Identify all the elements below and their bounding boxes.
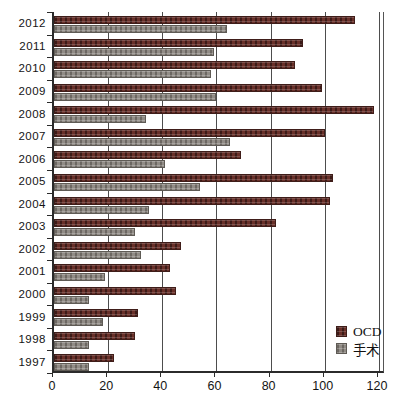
y-axis-label-2009: 2009: [0, 80, 46, 103]
x-axis-label-100: 100: [312, 379, 333, 393]
surgery-swatch-icon: [336, 343, 347, 354]
bar-ocd-2001: [54, 264, 170, 272]
legend-label-ocd: OCD: [353, 324, 382, 340]
x-axis-tick-80: [269, 372, 270, 377]
bar-ocd-2002: [54, 242, 181, 250]
y-axis-tick: [47, 215, 52, 216]
y-axis-tick: [47, 193, 52, 194]
bar-ocd-2009: [54, 84, 322, 92]
ocd-swatch-icon: [336, 326, 347, 337]
bar-ocd-2004: [54, 197, 330, 205]
y-axis-tick: [47, 305, 52, 306]
gridline-x-100: [325, 12, 326, 371]
bar-surgery-2004: [54, 206, 149, 214]
y-axis-tick: [47, 283, 52, 284]
bar-ocd-2003: [54, 219, 276, 227]
y-axis-label-2003: 2003: [0, 215, 46, 238]
x-axis-tick-120: [377, 372, 378, 377]
y-axis-label-2011: 2011: [0, 35, 46, 58]
x-axis-label-0: 0: [49, 379, 56, 393]
bar-surgery-2009: [54, 93, 216, 101]
bar-ocd-1999: [54, 309, 138, 317]
y-axis-tick: [47, 238, 52, 239]
bar-ocd-2006: [54, 151, 241, 159]
bar-surgery-2010: [54, 70, 211, 78]
y-axis-label-2008: 2008: [0, 102, 46, 125]
bar-surgery-2003: [54, 228, 135, 236]
y-axis-tick: [47, 80, 52, 81]
x-axis-label-80: 80: [262, 379, 276, 393]
bar-surgery-2012: [54, 25, 227, 33]
y-axis-label-2004: 2004: [0, 193, 46, 216]
y-axis-tick: [47, 147, 52, 148]
x-axis-label-20: 20: [99, 379, 113, 393]
x-axis-tick-20: [106, 372, 107, 377]
bar-ocd-2005: [54, 174, 333, 182]
x-axis-label-40: 40: [153, 379, 167, 393]
y-axis-tick: [47, 12, 52, 13]
y-axis-tick: [47, 260, 52, 261]
bar-surgery-2011: [54, 48, 214, 56]
legend: OCD 手术: [336, 323, 382, 357]
bar-surgery-1998: [54, 341, 89, 349]
bar-ocd-2007: [54, 129, 325, 137]
gridline-x-120: [379, 12, 380, 371]
legend-label-surgery: 手术: [353, 339, 379, 359]
bar-ocd-2008: [54, 106, 374, 114]
x-axis-tick-60: [214, 372, 215, 377]
y-axis-tick: [47, 125, 52, 126]
x-axis-label-60: 60: [208, 379, 222, 393]
y-axis-label-2012: 2012: [0, 12, 46, 35]
y-axis-label-2010: 2010: [0, 57, 46, 80]
x-axis-tick-0: [52, 372, 53, 377]
bar-ocd-2010: [54, 61, 295, 69]
bar-ocd-2000: [54, 287, 176, 295]
bar-surgery-2006: [54, 160, 165, 168]
legend-item-ocd: OCD: [336, 323, 382, 340]
bar-surgery-1997: [54, 363, 89, 371]
bar-surgery-2002: [54, 251, 141, 259]
y-axis-tick: [47, 57, 52, 58]
y-axis-label-2005: 2005: [0, 170, 46, 193]
bar-ocd-1998: [54, 332, 135, 340]
y-axis-label-1999: 1999: [0, 305, 46, 328]
bar-ocd-1997: [54, 354, 114, 362]
bar-ocd-2011: [54, 39, 303, 47]
bar-surgery-2008: [54, 115, 146, 123]
y-axis-label-2001: 2001: [0, 260, 46, 283]
plot-area: [52, 12, 384, 373]
legend-item-surgery: 手术: [336, 340, 382, 357]
y-axis-label-1998: 1998: [0, 328, 46, 351]
y-axis-tick: [47, 170, 52, 171]
y-axis-tick: [47, 328, 52, 329]
y-axis-label-1997: 1997: [0, 350, 46, 373]
y-axis-tick: [47, 102, 52, 103]
y-axis-tick: [47, 350, 52, 351]
bar-surgery-2001: [54, 273, 105, 281]
bar-surgery-2007: [54, 138, 230, 146]
bar-surgery-1999: [54, 318, 103, 326]
y-axis-label-2002: 2002: [0, 238, 46, 261]
bar-chart: 2012201120102009200820072006200520042003…: [0, 0, 397, 411]
y-axis-label-2000: 2000: [0, 283, 46, 306]
bar-surgery-2005: [54, 183, 200, 191]
y-axis-tick: [47, 35, 52, 36]
bar-surgery-2000: [54, 296, 89, 304]
x-axis-tick-40: [160, 372, 161, 377]
x-axis-tick-100: [323, 372, 324, 377]
y-axis-label-2007: 2007: [0, 125, 46, 148]
bar-ocd-2012: [54, 16, 355, 24]
y-axis-label-2006: 2006: [0, 147, 46, 170]
x-axis-label-120: 120: [367, 379, 388, 393]
